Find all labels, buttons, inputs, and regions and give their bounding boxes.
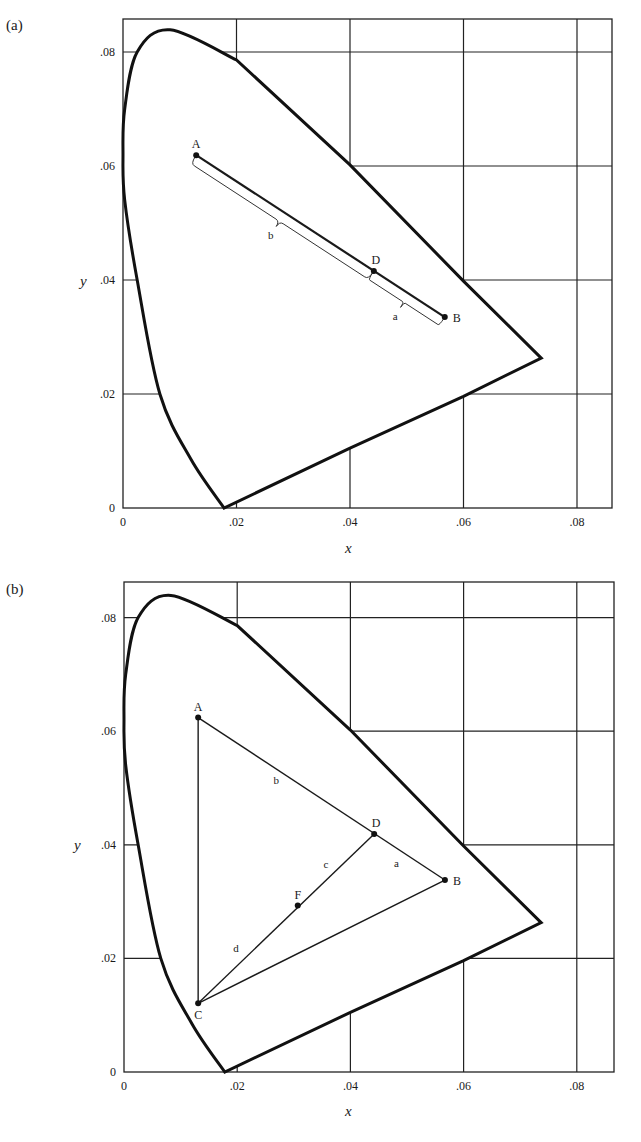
point-B (442, 314, 448, 320)
y-tick-label: 0 (109, 501, 115, 515)
panel-b-construction: badcADBCF (194, 700, 461, 1023)
point-label-D: D (371, 253, 380, 267)
segment-label: c (324, 858, 329, 870)
point-B (442, 877, 448, 883)
panel-a-label: (a) (6, 17, 23, 34)
spectral-locus-curve (124, 595, 541, 1072)
panel-b-tick-labels: 0.02.04.06.080.02.04.06.08 (101, 611, 584, 1093)
point-A (195, 715, 201, 721)
brace-b (193, 157, 373, 278)
panel-a-tick-labels: 0.02.04.06.080.02.04.06.08 (100, 45, 585, 529)
x-tick-label: 0 (120, 515, 126, 529)
point-D (371, 268, 377, 274)
y-tick-label: .02 (100, 387, 115, 401)
panel-a-spectral-locus (123, 30, 541, 508)
x-tick-label: 0 (121, 1079, 127, 1093)
point-label-C: C (194, 1008, 202, 1022)
x-tick-label: .02 (230, 1079, 245, 1093)
x-tick-label: .04 (343, 1079, 358, 1093)
point-C (195, 1000, 201, 1006)
point-label-D: D (372, 816, 381, 830)
panel-a-y-axis-title: y (78, 273, 87, 289)
point-F (295, 903, 301, 909)
panel-a-x-axis-title: x (344, 540, 352, 556)
y-tick-label: .04 (101, 838, 116, 852)
y-tick-label: .04 (100, 273, 115, 287)
brace-label: a (393, 310, 398, 322)
x-tick-label: .02 (229, 515, 244, 529)
y-tick-label: .06 (100, 159, 115, 173)
plot-frame (123, 19, 612, 508)
brace-label: b (268, 229, 274, 241)
panel-b-label: (b) (6, 581, 24, 598)
panel-a-grid (123, 19, 612, 508)
segment-CD (198, 834, 374, 1003)
segment-label: b (273, 774, 279, 786)
x-tick-label: .08 (569, 1079, 584, 1093)
segment-label: a (394, 857, 399, 869)
x-tick-label: .06 (456, 515, 471, 529)
chromaticity-figure: (a) 0.02.04.06.080.02.04.06.08 y x baADB… (0, 0, 641, 1142)
panel-a: (a) 0.02.04.06.080.02.04.06.08 y x baADB (6, 17, 612, 556)
panel-a-construction: baADB (192, 137, 461, 325)
y-tick-label: .06 (101, 724, 116, 738)
x-tick-label: .04 (343, 515, 358, 529)
point-label-B: B (453, 311, 461, 325)
segment-AB (196, 155, 445, 317)
segment-label: d (233, 942, 239, 954)
panel-b-x-axis-title: x (344, 1103, 352, 1119)
point-A (193, 152, 199, 158)
point-label-A: A (194, 700, 203, 714)
x-tick-label: .06 (456, 1079, 471, 1093)
point-label-F: F (294, 888, 301, 902)
segment-AB (198, 718, 445, 880)
y-tick-label: .08 (100, 45, 115, 59)
panel-b-y-axis-title: y (72, 837, 81, 853)
panel-b: (b) 0.02.04.06.080.02.04.06.08 y x badcA… (6, 581, 614, 1119)
point-D (371, 831, 377, 837)
panel-b-spectral-locus (124, 595, 541, 1072)
x-tick-label: .08 (570, 515, 585, 529)
point-label-B: B (453, 874, 461, 888)
y-tick-label: .02 (101, 951, 116, 965)
spectral-locus-curve (123, 30, 541, 508)
point-label-A: A (192, 137, 201, 151)
y-tick-label: 0 (110, 1065, 116, 1079)
y-tick-label: .08 (101, 611, 116, 625)
